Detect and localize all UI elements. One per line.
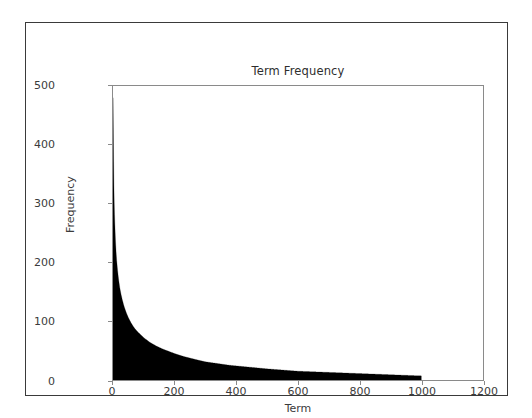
y-axis-label: Frequency	[64, 176, 77, 233]
xtick-label-400: 400	[226, 385, 247, 398]
xtick-label-1200: 1200	[470, 385, 498, 398]
chart-title: Term Frequency	[112, 64, 484, 78]
xtick-label-600: 600	[288, 385, 309, 398]
ytick-mark	[108, 262, 112, 263]
ytick-label-500: 500	[34, 79, 55, 92]
ytick-label-100: 100	[34, 315, 55, 328]
plot-area	[112, 85, 484, 381]
xtick-label-1000: 1000	[408, 385, 436, 398]
xtick-label-0: 0	[109, 385, 116, 398]
frequency-series-fill	[113, 98, 421, 380]
ytick-label-0: 0	[48, 375, 55, 388]
x-axis-label: Term	[112, 402, 484, 415]
ytick-mark	[108, 381, 112, 382]
ytick-label-200: 200	[34, 256, 55, 269]
ytick-mark	[108, 321, 112, 322]
ytick-label-400: 400	[34, 138, 55, 151]
ytick-mark	[108, 203, 112, 204]
figure-frame: Term Frequency 0 200 400 600 800 1000 12…	[25, 22, 508, 396]
term-frequency-area-plot	[113, 86, 483, 380]
ytick-mark	[108, 144, 112, 145]
xtick-label-800: 800	[350, 385, 371, 398]
xtick-label-200: 200	[164, 385, 185, 398]
ytick-label-300: 300	[34, 197, 55, 210]
ytick-mark	[108, 85, 112, 86]
